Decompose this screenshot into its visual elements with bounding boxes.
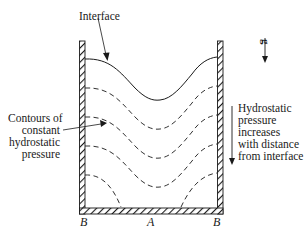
interface-pointer — [98, 18, 106, 55]
arrowhead-icon — [103, 53, 110, 62]
pressure-note-label: Hydrostatic pressure increases with dist… — [238, 102, 303, 162]
contour-4-left — [85, 175, 121, 207]
pressure-note-line: from interface — [238, 150, 303, 162]
point-a: A — [147, 216, 154, 228]
point-b-right: B — [213, 216, 220, 228]
right-wall — [218, 41, 224, 214]
contour-4-right — [181, 173, 217, 207]
contours-label-line: pressure — [8, 148, 60, 160]
pressure-note-line: pressure — [238, 114, 303, 126]
pressure-contours — [85, 86, 217, 207]
pressure-note-line: increases — [238, 126, 303, 138]
pressure-note-line: with distance — [238, 138, 303, 150]
arrowhead-icon — [229, 158, 235, 165]
gravity-label: g — [260, 39, 272, 45]
interface-curve — [85, 57, 217, 100]
pressure-note-line: Hydrostatic — [238, 102, 303, 114]
contours-label-line: Contours of — [8, 112, 60, 124]
contour-3 — [85, 144, 217, 187]
bottom-wall — [80, 208, 224, 214]
contours-label-line: hydrostatic — [8, 136, 60, 148]
interface-label: Interface — [79, 10, 120, 22]
contours-label: Contours of constant hydrostatic pressur… — [8, 112, 60, 160]
contours-label-line: constant — [8, 124, 60, 136]
arrowhead-icon — [262, 56, 268, 63]
point-b-left: B — [80, 216, 87, 228]
contour-2 — [85, 115, 217, 158]
